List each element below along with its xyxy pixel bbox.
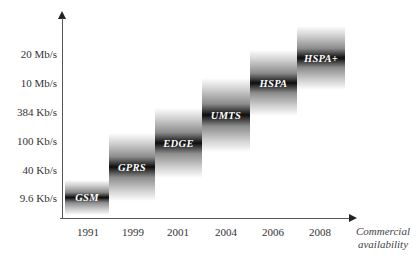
block-label: GSM [75, 192, 99, 203]
block-hspa-plus: HSPA+ [297, 26, 345, 90]
block-edge: EDGE [155, 108, 202, 178]
x-axis-title: Commercial availability [352, 225, 414, 251]
y-label-20mbps: 20 Mb/s [21, 48, 57, 60]
y-label-40kbps: 40 Kb/s [22, 164, 57, 176]
block-label: EDGE [163, 138, 193, 149]
x-label-2008: 2008 [297, 226, 343, 238]
y-label-384kbps: 384 Kb/s [17, 106, 57, 118]
x-axis [60, 218, 350, 219]
y-axis [62, 18, 63, 219]
y-label-10mbps: 10 Mb/s [21, 77, 57, 89]
y-label-100kbps: 100 Kb/s [17, 135, 57, 147]
x-label-1991: 1991 [65, 226, 111, 238]
x-axis-title-line1: Commercial [352, 225, 414, 238]
block-label: HSPA+ [304, 53, 338, 64]
block-label: HSPA [260, 78, 288, 89]
block-hspa: HSPA [250, 50, 297, 116]
block-umts: UMTS [202, 78, 250, 152]
x-label-2006: 2006 [250, 226, 296, 238]
x-label-2004: 2004 [203, 226, 249, 238]
block-gprs: GPRS [109, 133, 155, 201]
x-label-1999: 1999 [110, 226, 156, 238]
block-label: UMTS [211, 110, 241, 121]
y-label-9-6kbps: 9.6 Kb/s [20, 192, 57, 204]
x-axis-title-line2: availability [352, 238, 414, 251]
block-label: GPRS [118, 162, 146, 173]
x-label-2001: 2001 [155, 226, 201, 238]
block-gsm: GSM [65, 180, 109, 215]
x-axis-arrow-icon [349, 214, 357, 222]
